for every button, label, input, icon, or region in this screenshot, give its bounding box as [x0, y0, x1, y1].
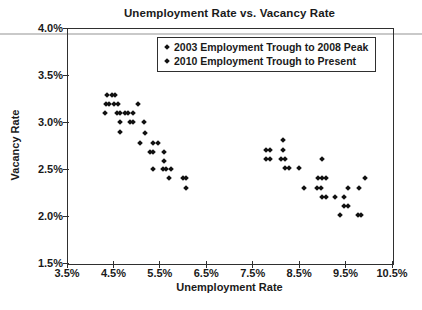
data-point [345, 185, 351, 191]
y-tick-label: 2.0% [22, 210, 63, 222]
data-point [359, 212, 365, 218]
y-tick-label: 1.5% [22, 257, 63, 269]
y-tick-mark [63, 169, 69, 170]
data-point [323, 176, 329, 182]
data-point [356, 185, 362, 191]
data-point [323, 194, 329, 200]
data-point [267, 156, 273, 162]
data-point [131, 119, 137, 125]
y-tick-mark [63, 122, 69, 123]
data-point [113, 92, 119, 98]
data-point [155, 140, 161, 146]
data-point [135, 101, 141, 107]
x-tick-label: 5.5% [140, 267, 180, 279]
data-point [184, 185, 190, 191]
legend-item-2003: 2003 Employment Trough to 2008 Peak [164, 40, 368, 54]
y-tick-label: 3.0% [22, 116, 63, 128]
data-point [280, 147, 286, 153]
x-tick-label: 7.5% [233, 267, 273, 279]
data-point [267, 147, 273, 153]
data-point [362, 176, 368, 182]
data-point [141, 119, 147, 125]
data-point [301, 185, 307, 191]
legend-label: 2010 Employment Trough to Present [174, 54, 356, 68]
x-axis-title: Unemployment Rate [67, 281, 392, 293]
chart-canvas: Unemployment Rate vs. Vacancy Rate 2003 … [0, 0, 422, 310]
data-point [296, 165, 302, 171]
data-point [282, 156, 288, 162]
data-point [142, 130, 148, 136]
x-tick-label: 4.5% [93, 267, 133, 279]
y-tick-mark [63, 28, 69, 29]
x-tick-label: 9.5% [326, 267, 366, 279]
data-point [137, 140, 143, 146]
y-tick-label: 3.5% [22, 69, 63, 81]
data-point [151, 166, 157, 172]
data-point [337, 212, 343, 218]
data-point [332, 194, 338, 200]
data-point [318, 185, 324, 191]
data-point [286, 165, 292, 171]
data-point [280, 137, 286, 143]
x-tick-label: 8.5% [279, 267, 319, 279]
y-tick-mark [63, 216, 69, 217]
x-tick-label: 10.5% [372, 267, 412, 279]
data-point [345, 203, 351, 209]
data-point [118, 119, 124, 125]
diamond-marker-icon [164, 44, 170, 50]
y-tick-label: 4.0% [22, 22, 63, 34]
chart-title: Unemployment Rate vs. Vacancy Rate [67, 7, 392, 19]
y-axis-title: Vacancy Rate [9, 99, 21, 191]
y-tick-mark [63, 75, 69, 76]
data-point [319, 156, 325, 162]
x-tick-label: 6.5% [186, 267, 226, 279]
legend-label: 2003 Employment Trough to 2008 Peak [174, 40, 368, 54]
data-point [161, 149, 167, 155]
data-point [168, 166, 174, 172]
data-point [166, 176, 172, 182]
x-tick-label: 3.5% [47, 267, 87, 279]
data-point [115, 101, 121, 107]
data-point [161, 158, 167, 164]
data-point [130, 110, 136, 116]
data-point [184, 176, 190, 182]
data-point [341, 194, 347, 200]
data-point [118, 130, 124, 136]
data-point [151, 149, 157, 155]
diamond-marker-icon [164, 58, 170, 64]
legend-item-2010: 2010 Employment Trough to Present [164, 54, 368, 68]
data-point [102, 110, 108, 116]
legend: 2003 Employment Trough to 2008 Peak 2010… [157, 37, 376, 72]
y-tick-mark [63, 263, 69, 264]
y-tick-label: 2.5% [22, 163, 63, 175]
